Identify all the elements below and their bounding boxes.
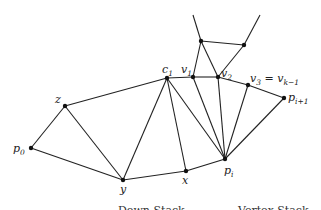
caption-0: Down Stack [118, 204, 185, 210]
label-v2: v2 [221, 67, 232, 82]
edge-p0-y [31, 148, 123, 180]
vertex-v2 [216, 75, 220, 79]
edge-p0-z [31, 106, 65, 148]
edge-y-c1 [123, 78, 167, 180]
vertex-y [121, 178, 125, 182]
vertex-p0 [29, 146, 33, 150]
label-pi1: pi+1 [288, 91, 309, 106]
triangulation-diagram: p0zyxc1v1v2v3 = vk−1pi+1pi Down StackVer… [0, 0, 321, 210]
edge-v3-pi1 [248, 85, 284, 98]
captions: Down StackVertex Stack [118, 204, 309, 210]
edges [31, 15, 284, 180]
edge-t1-v2 [201, 41, 218, 77]
label-v3: v3 = vk−1 [250, 72, 299, 87]
open-edge-1 [244, 15, 260, 45]
edge-v1-pi [193, 77, 225, 159]
edge-z-y [65, 106, 123, 180]
vertex-x [184, 169, 188, 173]
label-v1: v1 [181, 63, 192, 78]
vertex-t1 [199, 39, 203, 43]
label-c1: c1 [162, 63, 173, 78]
vertex-z [63, 104, 67, 108]
label-pi: pi [224, 164, 234, 179]
open-edge-0 [193, 15, 201, 41]
vertex-t2 [242, 43, 246, 47]
edge-y-x [123, 171, 186, 180]
edge-pi1-pi [225, 98, 284, 159]
label-z: z [54, 93, 61, 106]
label-x: x [182, 174, 189, 187]
edge-t1-v1 [193, 41, 201, 77]
edge-x-pi [186, 159, 225, 171]
label-y: y [119, 183, 127, 196]
label-p0: p0 [13, 142, 25, 157]
edge-t1-t2 [201, 41, 244, 45]
edge-v2-pi [218, 77, 225, 159]
vertex-pi1 [282, 96, 286, 100]
edge-z-c1 [65, 78, 167, 106]
vertex-pi [223, 157, 227, 161]
node-labels: p0zyxc1v1v2v3 = vk−1pi+1pi [13, 63, 309, 196]
caption-1: Vertex Stack [237, 204, 309, 210]
